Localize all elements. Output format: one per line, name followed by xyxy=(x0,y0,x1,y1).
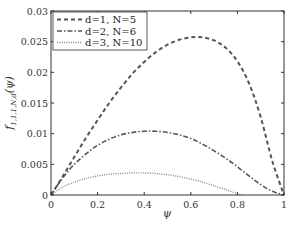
line-chart: 00.20.40.60.81 00.0050.010.0150.020.0250… xyxy=(0,0,293,225)
y-axis-label: f1,1,1,N,d(ψ) xyxy=(3,76,18,131)
x-axis-label: ψ xyxy=(163,207,172,220)
y-axis-label-group: f1,1,1,N,d(ψ) xyxy=(3,76,18,131)
series-line-2 xyxy=(51,131,284,195)
legend-label-series-1: d=1, N=5 xyxy=(85,14,136,25)
x-tick-label: 1 xyxy=(281,199,287,210)
x-tick-label: 0.2 xyxy=(90,199,105,210)
y-tick-label: 0.005 xyxy=(21,159,48,170)
plot-lines xyxy=(51,37,284,195)
legend: d=1, N=5 d=2, N=6 d=3, N=10 xyxy=(53,12,147,50)
y-tick-label: 0.025 xyxy=(21,36,48,47)
x-tick-label: 0 xyxy=(48,199,54,210)
y-tick-label: 0.03 xyxy=(27,6,48,17)
y-tick-label: 0.015 xyxy=(21,98,48,109)
x-tick-label: 0.6 xyxy=(183,199,198,210)
legend-label-series-3: d=3, N=10 xyxy=(85,37,142,48)
x-tick-label: 0.8 xyxy=(230,199,245,210)
legend-label-series-2: d=2, N=6 xyxy=(85,26,136,37)
x-tick-label: 0.4 xyxy=(137,199,152,210)
series-line-3 xyxy=(51,173,242,195)
series-line-1 xyxy=(51,37,284,195)
y-tick-label: 0.02 xyxy=(27,67,48,78)
y-tick-label: 0 xyxy=(42,190,48,201)
y-tick-label: 0.01 xyxy=(27,128,48,139)
